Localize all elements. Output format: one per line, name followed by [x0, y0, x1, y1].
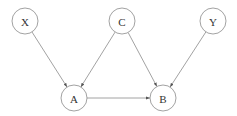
edge-y-to-b: [170, 32, 206, 87]
node-label: C: [118, 16, 125, 28]
node-label: Y: [209, 16, 217, 28]
nodes: XCYAB: [12, 8, 226, 111]
node-label: B: [159, 93, 166, 105]
edge-c-to-b: [128, 32, 157, 86]
arrow-line: [81, 32, 115, 87]
causal-graph: XCYAB: [0, 0, 237, 116]
edges: [32, 32, 206, 98]
node-x: X: [12, 8, 38, 34]
node-y: Y: [200, 8, 226, 34]
edge-c-to-a: [81, 32, 115, 87]
node-b: B: [150, 85, 176, 111]
arrow-line: [170, 32, 206, 87]
edge-x-to-a: [32, 32, 67, 87]
node-c: C: [109, 8, 135, 34]
node-label: A: [70, 93, 78, 105]
node-label: X: [21, 16, 29, 28]
arrow-line: [32, 32, 67, 87]
arrow-line: [128, 32, 157, 86]
node-a: A: [61, 85, 87, 111]
